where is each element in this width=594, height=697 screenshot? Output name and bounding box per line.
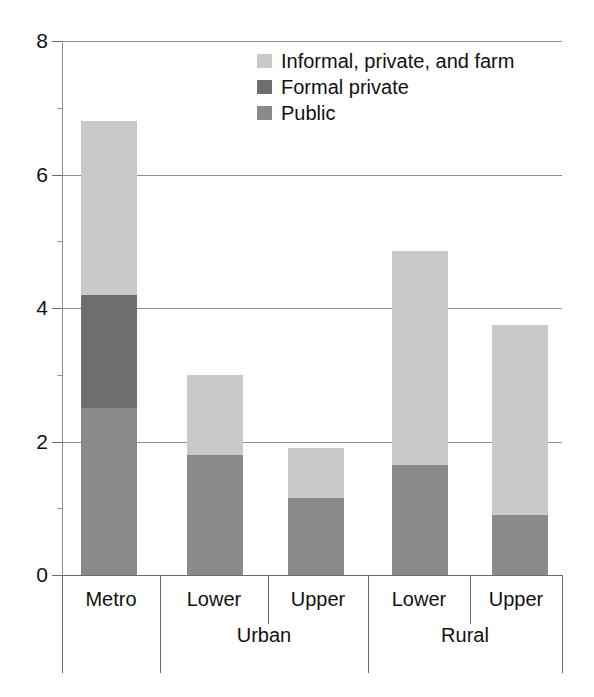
legend-item: Informal, private, and farm xyxy=(257,48,514,74)
bar-segment xyxy=(81,408,137,575)
category-separator xyxy=(470,575,471,624)
bar-segment xyxy=(392,251,448,465)
y-tick-mark-0 xyxy=(52,575,62,576)
group-separator xyxy=(62,624,63,673)
group-separator xyxy=(368,624,369,673)
category-separator xyxy=(268,575,269,624)
y-tick-label-4: 4 xyxy=(6,297,48,318)
category-label-upper-2: Upper xyxy=(268,575,368,624)
bar-segment xyxy=(187,375,243,455)
group-label-rural: Rural xyxy=(368,624,562,673)
y-tick-mark-2 xyxy=(52,442,62,443)
y-tick-mark-6 xyxy=(52,175,62,176)
category-label-lower-1: Lower xyxy=(160,575,268,624)
bar-segment xyxy=(392,465,448,575)
category-label-metro-0: Metro xyxy=(62,575,160,624)
chart-legend: Informal, private, and farmFormal privat… xyxy=(257,48,514,126)
bar-0 xyxy=(81,41,137,575)
group-separator xyxy=(562,624,563,673)
y-tick-label-0: 0 xyxy=(6,564,48,585)
y-tick-mark-4 xyxy=(52,308,62,309)
category-separator xyxy=(562,575,563,624)
y-tick-label-8: 8 xyxy=(6,30,48,51)
category-separator xyxy=(62,575,63,624)
category-label-upper-4: Upper xyxy=(470,575,562,624)
y-tick-mark-8 xyxy=(52,41,62,42)
legend-item: Public xyxy=(257,100,514,126)
group-label-urban: Urban xyxy=(160,624,368,673)
bar-1 xyxy=(187,41,243,575)
legend-swatch-icon xyxy=(257,54,272,68)
category-separator xyxy=(160,575,161,624)
bar-segment xyxy=(187,455,243,575)
legend-label: Public xyxy=(281,103,335,123)
legend-label: Informal, private, and farm xyxy=(281,51,514,71)
bar-segment xyxy=(81,295,137,408)
bar-segment xyxy=(492,325,548,515)
bar-segment xyxy=(288,498,344,575)
category-label-lower-3: Lower xyxy=(368,575,470,624)
legend-item: Formal private xyxy=(257,74,514,100)
chart-figure: 02468 Informal, private, and farmFormal … xyxy=(0,0,594,697)
legend-swatch-icon xyxy=(257,106,272,120)
legend-swatch-icon xyxy=(257,80,272,94)
bar-segment xyxy=(288,448,344,498)
legend-label: Formal private xyxy=(281,77,409,97)
category-row-primary: MetroLowerUpperLowerUpper xyxy=(62,575,562,624)
bar-segment xyxy=(81,121,137,295)
category-separator xyxy=(368,575,369,624)
y-tick-label-2: 2 xyxy=(6,431,48,452)
group-separator xyxy=(160,624,161,673)
y-tick-label-6: 6 xyxy=(6,164,48,185)
category-axis: MetroLowerUpperLowerUpper UrbanRural xyxy=(62,575,562,673)
bar-segment xyxy=(492,515,548,575)
category-row-group: UrbanRural xyxy=(62,624,562,673)
